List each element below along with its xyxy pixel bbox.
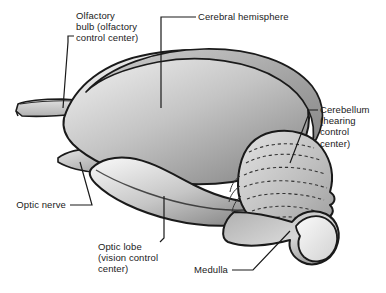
leader-olfactory-bulb bbox=[63, 36, 74, 108]
medulla-shape bbox=[223, 211, 339, 264]
label-cerebral-hemisphere: Cerebral hemisphere bbox=[198, 11, 289, 22]
label-olfactory-bulb: Olfactory bulb (olfactory control center… bbox=[76, 10, 138, 44]
brain-diagram-figure: Olfactory bulb (olfactory control center… bbox=[0, 0, 386, 293]
label-optic-nerve: Optic nerve bbox=[8, 199, 66, 210]
label-cerebellum: Cerebellum (hearing control center) bbox=[320, 104, 370, 149]
label-optic-lobe: Optic lobe (vision control center) bbox=[98, 241, 158, 275]
label-medulla: Medulla bbox=[170, 264, 228, 275]
